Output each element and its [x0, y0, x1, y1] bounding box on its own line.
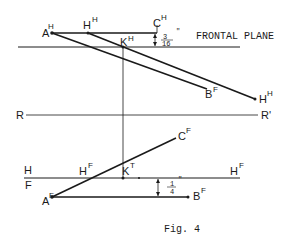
svg-text:F: F	[88, 161, 93, 170]
svg-text:4: 4	[170, 188, 174, 196]
label-h-front: H	[79, 165, 87, 177]
label-c-top: C	[153, 17, 161, 29]
line-h-h-top	[88, 33, 255, 99]
svg-text:F: F	[213, 85, 218, 94]
label-h-top: H	[83, 19, 91, 31]
label-b-front: B	[193, 190, 200, 202]
fold-label-f: F	[25, 179, 32, 191]
svg-text:": "	[178, 175, 182, 183]
projection-diagram: A H H H C H K H B F H H 3 16 " FRONTAL P…	[0, 0, 297, 244]
svg-text:H: H	[267, 89, 273, 98]
figure-caption: Fig. 4	[164, 224, 200, 235]
label-k-top: K	[120, 36, 128, 48]
label-c-front: C	[178, 130, 186, 142]
svg-text:F: F	[201, 186, 206, 195]
label-r: R	[16, 109, 24, 121]
label-h-front-right: H	[230, 165, 238, 177]
label-h2-top: H	[259, 93, 267, 105]
svg-text:F: F	[49, 191, 54, 200]
svg-text:": "	[176, 27, 180, 35]
line-a-c-front	[52, 138, 176, 197]
svg-text:H: H	[92, 15, 98, 24]
label-r-prime: R'	[261, 109, 271, 121]
svg-text:H: H	[48, 22, 54, 31]
svg-text:H: H	[128, 34, 134, 43]
fold-label-h: H	[24, 164, 32, 176]
svg-text:F: F	[239, 161, 244, 170]
label-b-top: B	[205, 88, 212, 100]
svg-text:16: 16	[162, 40, 170, 48]
svg-text:H: H	[161, 13, 167, 22]
label-k-front: K	[122, 165, 130, 177]
frontal-plane-label: FRONTAL PLANE	[196, 31, 274, 42]
svg-text:F: F	[186, 126, 191, 135]
svg-text:T: T	[130, 161, 135, 170]
